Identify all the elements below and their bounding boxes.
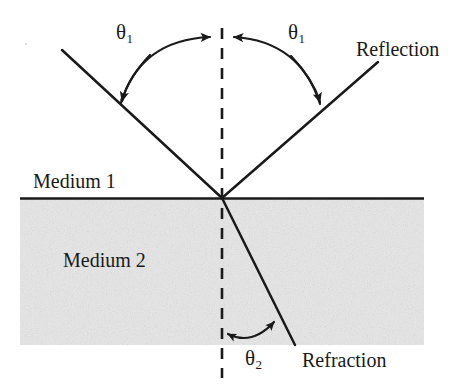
theta2-symbol: θ xyxy=(245,346,255,370)
medium1-label: Medium 1 xyxy=(33,171,116,191)
medium2-label: Medium 2 xyxy=(63,250,146,270)
reflected-ray xyxy=(222,62,378,198)
theta2-label: θ2 xyxy=(245,348,262,371)
theta1-left-label: θ1 xyxy=(116,22,133,45)
theta1-right-subscript: 1 xyxy=(298,31,305,46)
theta2-subscript: 2 xyxy=(255,357,262,372)
refraction-label: Refraction xyxy=(302,350,386,370)
theta1-right-label: θ1 xyxy=(288,22,305,45)
theta1-left-symbol: θ xyxy=(116,20,126,44)
reflection-label: Reflection xyxy=(356,39,439,59)
optics-diagram: θ1 θ1 θ2 Medium 1 Medium 2 Reflection Re… xyxy=(0,0,476,392)
paper-speck xyxy=(25,43,27,45)
theta1-left-arc xyxy=(121,37,210,103)
theta1-right-arc xyxy=(234,37,320,104)
theta1-right-symbol: θ xyxy=(288,20,298,44)
theta1-left-subscript: 1 xyxy=(126,31,133,46)
